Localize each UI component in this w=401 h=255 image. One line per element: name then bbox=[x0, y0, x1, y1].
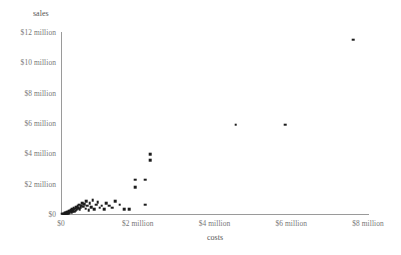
cropped-bottom-text bbox=[6, 246, 186, 255]
data-point bbox=[97, 201, 100, 204]
data-point bbox=[123, 208, 126, 211]
data-point bbox=[144, 179, 147, 182]
data-points-layer bbox=[0, 0, 401, 255]
data-point bbox=[114, 200, 117, 203]
data-point bbox=[234, 123, 237, 126]
x-axis-title: costs bbox=[207, 233, 223, 242]
data-point bbox=[149, 153, 152, 156]
data-point bbox=[88, 202, 91, 205]
data-point bbox=[111, 206, 114, 209]
data-point bbox=[118, 203, 121, 206]
data-point bbox=[92, 199, 95, 202]
data-point bbox=[144, 203, 147, 206]
data-point bbox=[93, 208, 96, 211]
data-point bbox=[352, 38, 355, 41]
data-point bbox=[284, 123, 287, 126]
data-point bbox=[134, 179, 137, 182]
data-point bbox=[85, 200, 88, 203]
scatter-plot-figure: sales $0$2 million$4 million$6 million$8… bbox=[0, 0, 401, 255]
data-point bbox=[149, 159, 152, 162]
data-point bbox=[128, 208, 131, 211]
data-point bbox=[95, 203, 98, 206]
data-point bbox=[134, 186, 137, 189]
data-point bbox=[87, 209, 90, 212]
data-point bbox=[103, 208, 106, 211]
data-point bbox=[100, 204, 103, 207]
